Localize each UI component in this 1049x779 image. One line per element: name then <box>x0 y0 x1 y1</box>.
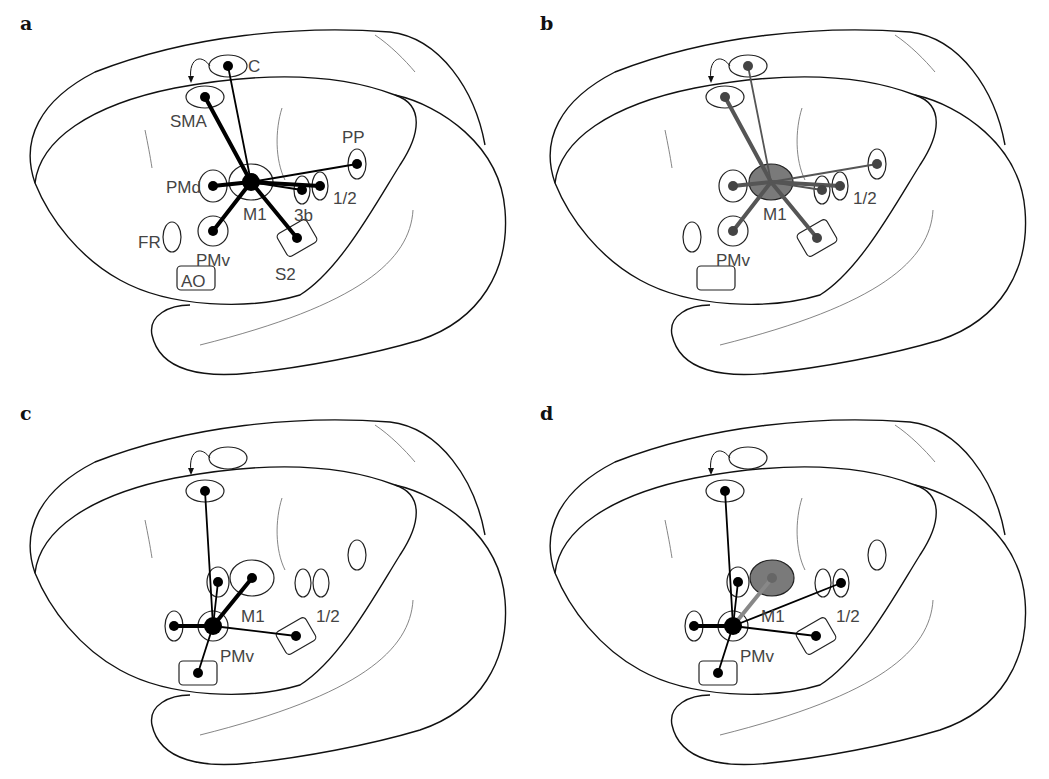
area-PMv-dot <box>724 617 742 635</box>
area-label-M1: M1 <box>763 205 787 224</box>
area-label-PMd: PMd <box>166 178 201 197</box>
area-1-2-dot <box>315 181 325 191</box>
connection-M1-SMA <box>205 97 251 182</box>
area-C-dot <box>743 61 753 71</box>
panel-b: b M11/2PMv <box>520 0 1040 390</box>
area-M1-dot <box>247 573 257 583</box>
brain-outline-dorsal <box>550 420 1005 573</box>
area-label-M1: M1 <box>761 607 785 626</box>
area-label-PMv: PMv <box>740 647 775 666</box>
area-label-SMA: SMA <box>170 112 208 131</box>
arrowhead-icon <box>708 468 714 475</box>
area-3b-dot <box>817 185 827 195</box>
sulcus-line <box>375 35 415 72</box>
area-SMA-dot <box>200 486 210 496</box>
brain-diagram-b: M11/2PMv <box>520 0 1040 390</box>
area-AO-dot <box>713 668 723 678</box>
area-label-AO: AO <box>181 272 206 291</box>
area-label-M1: M1 <box>243 205 267 224</box>
area-M1-dot <box>767 573 777 583</box>
panel-a: a CSMAM1PMd3b1/2PPPMvS2FRAO <box>0 0 520 390</box>
area-FR-shape <box>683 222 701 252</box>
area-PP-shape <box>348 540 366 570</box>
area-PP-shape <box>868 540 886 570</box>
panel-c: c M11/2PMv <box>0 390 520 779</box>
area-AO-dot <box>193 668 203 678</box>
area-C-shape <box>729 447 767 469</box>
central-sulcus-line <box>277 498 285 570</box>
area-S2-dot <box>812 233 822 243</box>
area-label-1-2: 1/2 <box>316 607 340 626</box>
arcuate-sulcus-line <box>145 520 152 558</box>
connection-PMv-SMA <box>725 491 733 626</box>
brain-diagram-d: M11/2PMv <box>520 390 1040 779</box>
connection-PMv-SMA <box>205 491 213 626</box>
central-sulcus-line <box>797 498 805 570</box>
area-label-PMv: PMv <box>220 647 255 666</box>
brain-outline-dorsal <box>550 30 1005 183</box>
frontal-lobe-outline <box>35 77 416 304</box>
area-PMd-dot <box>728 181 738 191</box>
area-label-3b: 3b <box>294 206 313 225</box>
brain-diagram-c: M11/2PMv <box>0 390 520 779</box>
superior-temporal-sulcus-line <box>720 210 933 345</box>
area-S2-dot <box>292 233 302 243</box>
area-PMv-dot <box>728 226 738 236</box>
area-PMv-dot <box>204 617 222 635</box>
area-M1-dot <box>242 173 260 191</box>
area-SMA-dot <box>720 92 730 102</box>
area-label-1-2: 1/2 <box>333 189 357 208</box>
superior-temporal-sulcus-line <box>200 210 413 345</box>
area-label-C: C <box>248 57 260 76</box>
area-label-PMv: PMv <box>716 251 751 270</box>
central-sulcus-line <box>277 108 285 180</box>
area-label-PMv: PMv <box>196 251 231 270</box>
area-label-PP: PP <box>342 128 365 147</box>
area-PMd-dot <box>213 577 223 587</box>
area-PMv-dot <box>208 226 218 236</box>
area-SMA-dot <box>720 486 730 496</box>
connection-M1-1-2 <box>251 182 320 186</box>
arcuate-sulcus-line <box>145 130 152 168</box>
area-3b-dot <box>297 185 307 195</box>
temporal-lobe-outline <box>672 95 1026 375</box>
panel-d: d M11/2PMv <box>520 390 1040 779</box>
area-FR-dot <box>169 621 179 631</box>
area-FR-dot <box>689 621 699 631</box>
sulcus-line <box>375 425 415 462</box>
arcuate-sulcus-line <box>665 520 672 558</box>
temporal-lobe-outline <box>152 95 506 375</box>
area-label-FR: FR <box>138 233 161 252</box>
area-PMd-dot <box>733 577 743 587</box>
connection-M1-SMA <box>725 97 771 182</box>
brain-diagram-a: CSMAM1PMd3b1/2PPPMvS2FRAO <box>0 0 520 390</box>
sulcus-line <box>895 35 935 72</box>
brain-outline-dorsal <box>30 420 485 573</box>
connection-M1-PP <box>251 164 357 182</box>
area-label-1-2: 1/2 <box>836 607 860 626</box>
area-S2-dot <box>291 631 301 641</box>
area-SMA-dot <box>200 92 210 102</box>
area-label-M1: M1 <box>241 607 265 626</box>
area-1-2-dot <box>836 578 846 588</box>
brain-outline-dorsal <box>30 30 485 183</box>
area-C-dot <box>223 61 233 71</box>
arrowhead-icon <box>188 468 194 475</box>
area-1-2-dot <box>835 181 845 191</box>
area-PMd-dot <box>208 181 218 191</box>
area-3b-shape <box>295 569 311 597</box>
frontal-lobe-outline <box>555 77 936 304</box>
arcuate-sulcus-line <box>665 130 672 168</box>
area-FR-shape <box>163 222 181 252</box>
area-1-2-shape <box>313 569 329 597</box>
area-PP-dot <box>352 159 362 169</box>
area-S2-dot <box>811 631 821 641</box>
central-sulcus-line <box>797 108 805 180</box>
arrowhead-icon <box>188 76 194 83</box>
sulcus-line <box>895 425 935 462</box>
area-PP-dot <box>872 159 882 169</box>
area-C-shape <box>209 447 247 469</box>
area-label-1-2: 1/2 <box>853 189 877 208</box>
area-label-S2: S2 <box>275 265 296 284</box>
arrowhead-icon <box>708 76 714 83</box>
